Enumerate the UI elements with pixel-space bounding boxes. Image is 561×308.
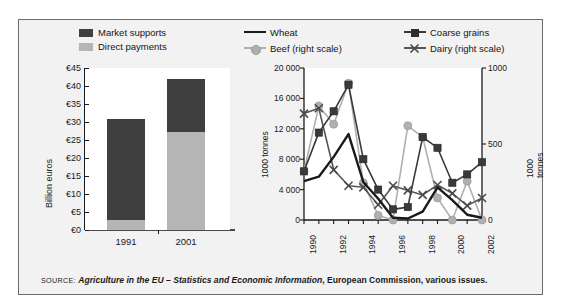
line-chart-svg [244,60,542,272]
bar-chart-y-tick [85,212,89,213]
bar-chart-legend: Market supports Direct payments [79,26,229,54]
line-chart-x-tick-label: 2002 [486,235,496,254]
bar-chart: Billion euros €0€5€10€15€20€25€30€35€40€… [41,58,239,270]
bar-segment [167,79,205,132]
line-chart-left-y-tick-label: 16 000 [244,94,300,103]
bar-chart-y-tick [85,122,89,123]
bar-column [167,68,205,230]
legend-label: Coarse grains [430,27,489,38]
coarse-grains-square-marker-icon [404,26,426,38]
bar-chart-y-tick [85,194,89,195]
bar-segment [107,220,145,230]
bar-chart-y-tick-label: €35 [41,100,81,109]
legend-item-market-supports: Market supports [79,26,229,39]
line-chart-x-tick-label: 1992 [338,235,348,254]
line-chart-right-y-tick-label: 0 [488,216,493,225]
line-chart-x-tick-label: 2000 [456,235,466,254]
line-chart-left-y-tick-label: 8 000 [244,155,300,164]
bar-column [107,68,145,230]
bar-chart-y-tick-label: €20 [41,154,81,163]
line-chart-x-tick-label: 1998 [427,235,437,254]
line-chart-x-tick-label: 1994 [367,235,377,254]
bar-chart-y-tick [85,140,89,141]
beef-circle-marker-icon [244,42,266,54]
legend-label: Wheat [270,27,297,38]
line-chart-x-tick-label: 1990 [308,235,318,254]
bar-chart-y-tick [85,158,89,159]
line-chart-left-y-tick-label: 4 000 [244,185,300,194]
bar-chart-plot-area [85,68,230,230]
bar-chart-y-tick-label: €45 [41,64,81,73]
legend-label: Beef (right scale) [270,43,342,54]
line-chart-left-y-tick-label: 12 000 [244,125,300,134]
bar-chart-y-tick-label: €10 [41,190,81,199]
line-chart-x-tick-label: 1996 [397,235,407,254]
bar-chart-y-axis-label: Billion euros [44,159,54,208]
bar-segment [107,119,145,219]
bar-chart-y-tick-label: €25 [41,136,81,145]
source-keyword: SOURCE: [41,276,76,285]
bar-chart-y-tick [85,230,89,231]
source-note: SOURCE: Agriculture in the EU – Statisti… [41,275,488,285]
bar-chart-y-tick-label: €30 [41,118,81,127]
source-publisher: , European Commission, various issues. [322,275,487,285]
line-chart-left-y-tick-label: 20 000 [244,64,300,73]
legend-item-wheat: Wheat [244,26,297,38]
bar-chart-x-tick-label: 2001 [156,236,216,247]
bar-chart-y-tick-label: €40 [41,82,81,91]
bar-chart-x-tick-label: 1991 [96,236,156,247]
legend-item-direct-payments: Direct payments [79,40,229,53]
direct-payments-swatch-icon [79,43,93,51]
line-chart-right-y-tick-label: 1000 [488,64,507,73]
figure-panel: Market supports Direct payments Billion … [18,19,543,295]
line-chart-legend: Wheat Coarse grains Beef (right scale) D… [244,26,544,58]
bar-chart-y-tick [85,104,89,105]
bar-chart-y-tick [85,86,89,87]
legend-label: Market supports [98,27,166,38]
bar-segment [167,132,205,230]
bar-chart-y-tick [85,176,89,177]
bar-chart-y-tick-label: €0 [41,226,81,235]
legend-label: Direct payments [98,41,167,52]
bar-chart-y-tick [85,68,89,69]
bar-chart-y-tick-label: €15 [41,172,81,181]
dairy-x-marker-icon [404,42,426,54]
line-chart: 1000 tonnes 1000 tonnes 04 0008 00012 00… [244,60,542,272]
legend-label: Dairy (right scale) [430,43,504,54]
line-chart-left-y-tick-label: 0 [244,216,300,225]
line-chart-right-y-tick-label: 500 [488,140,502,149]
wheat-line-icon [244,26,266,38]
legend-item-beef: Beef (right scale) [244,42,342,54]
legend-item-coarse-grains: Coarse grains [404,26,489,38]
source-title: Agriculture in the EU – Statistics and E… [78,275,322,285]
market-supports-swatch-icon [79,29,93,37]
bar-chart-y-tick-label: €5 [41,208,81,217]
legend-item-dairy: Dairy (right scale) [404,42,504,54]
